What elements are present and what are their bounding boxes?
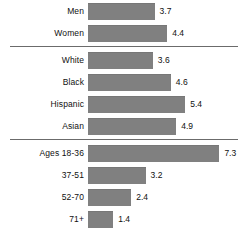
bar-category-label: White xyxy=(0,56,88,65)
bar-category-label: Asian xyxy=(0,122,88,131)
bar-value-label: 1.4 xyxy=(113,215,130,224)
bar-row: 52-702.4 xyxy=(0,186,245,208)
bar-row: 37-513.2 xyxy=(0,164,245,186)
bar-value-label: 4.9 xyxy=(176,122,193,131)
bar xyxy=(88,3,155,20)
bar-group-age: Ages 18-367.337-513.252-702.471+1.4 xyxy=(0,142,245,230)
bar-category-label: Women xyxy=(0,29,88,38)
bar-category-label: 52-70 xyxy=(0,193,88,202)
bar-value-label: 3.7 xyxy=(155,7,172,16)
bar-track: 3.6 xyxy=(88,49,245,71)
bar-value-label: 5.4 xyxy=(185,100,202,109)
bar-category-label: Hispanic xyxy=(0,100,88,109)
bar-track: 5.4 xyxy=(88,93,245,115)
bar-track: 1.4 xyxy=(88,208,245,230)
bar xyxy=(88,118,176,135)
bar xyxy=(88,96,185,113)
bar-category-label: 71+ xyxy=(0,215,88,224)
bar xyxy=(88,52,153,69)
chart-groups: Men3.7Women4.4White3.6Black4.6Hispanic5.… xyxy=(0,0,245,230)
bar-group-race-ethnicity: White3.6Black4.6Hispanic5.4Asian4.9 xyxy=(0,49,245,137)
bar-group-gender: Men3.7Women4.4 xyxy=(0,0,245,44)
bar-value-label: 3.2 xyxy=(146,171,163,180)
bar-row: Men3.7 xyxy=(0,0,245,22)
bar-value-label: 7.3 xyxy=(219,149,236,158)
bar-category-label: Ages 18-36 xyxy=(0,149,88,158)
bar-row: Women4.4 xyxy=(0,22,245,44)
bar-category-label: Men xyxy=(0,7,88,16)
bar-row: White3.6 xyxy=(0,49,245,71)
bar-value-label: 4.6 xyxy=(171,78,188,87)
bar-track: 2.4 xyxy=(88,186,245,208)
bar-track: 4.4 xyxy=(88,22,245,44)
bar-row: Black4.6 xyxy=(0,71,245,93)
bar-track: 3.7 xyxy=(88,0,245,22)
bar-row: Asian4.9 xyxy=(0,115,245,137)
bar xyxy=(88,167,146,184)
bar-row: Hispanic5.4 xyxy=(0,93,245,115)
bar xyxy=(88,189,131,206)
group-separator xyxy=(10,139,238,140)
bar-track: 4.6 xyxy=(88,71,245,93)
bar-value-label: 4.4 xyxy=(167,29,184,38)
bar-chart: Men3.7Women4.4White3.6Black4.6Hispanic5.… xyxy=(0,0,245,233)
bar-track: 4.9 xyxy=(88,115,245,137)
bar xyxy=(88,25,167,42)
bar-value-label: 2.4 xyxy=(131,193,148,202)
group-separator xyxy=(10,46,238,47)
bar-category-label: 37-51 xyxy=(0,171,88,180)
bar xyxy=(88,145,219,162)
bar-category-label: Black xyxy=(0,78,88,87)
bar-track: 3.2 xyxy=(88,164,245,186)
bar-row: 71+1.4 xyxy=(0,208,245,230)
bar xyxy=(88,211,113,228)
bar-value-label: 3.6 xyxy=(153,56,170,65)
bar xyxy=(88,74,171,91)
bar-track: 7.3 xyxy=(88,142,245,164)
bar-row: Ages 18-367.3 xyxy=(0,142,245,164)
